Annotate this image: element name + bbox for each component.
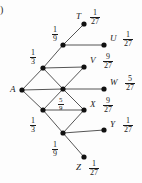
fraction-numerator: 5 (125, 75, 135, 83)
edge-probability-p-1-9-bottom: 19 (52, 140, 58, 158)
tree-node-n2 (40, 107, 45, 112)
tree-edge (22, 89, 63, 90)
edge-probability-p-1-3-bottom: 13 (30, 116, 36, 134)
tree-node-n3 (60, 42, 65, 47)
node-label-V: V (90, 56, 96, 65)
tree-edge (63, 67, 84, 89)
fraction-denominator: 9 (52, 34, 58, 43)
tree-graph-canvas (0, 0, 142, 183)
fraction-denominator: 9 (58, 104, 64, 112)
tree-edge (22, 68, 43, 90)
outcome-probability-T: 127 (90, 8, 100, 26)
edge-probability-p-1-9-top: 19 (52, 25, 58, 43)
node-label-U: U (110, 34, 117, 43)
tree-edge (43, 45, 63, 68)
tree-node-Y (101, 127, 106, 132)
node-label-W: W (110, 78, 118, 87)
outcome-probability-W: 527 (125, 74, 135, 92)
fraction-numerator: 1 (123, 31, 133, 39)
tree-node-Z (81, 154, 86, 159)
outcome-probability-Z: 127 (89, 159, 99, 177)
tree-edge (63, 110, 84, 133)
edge-probability-p-5-9-center: 59 (58, 95, 64, 112)
tree-node-W (101, 86, 106, 91)
tree-node-n5 (60, 130, 65, 135)
node-label-X: X (90, 100, 96, 109)
fraction-denominator: 3 (30, 57, 36, 66)
fraction-numerator: 1 (52, 141, 58, 149)
fraction: 927 (103, 97, 113, 114)
probability-tree-figure: ) A 1913591319 T127U127V927W527X927Y127Z… (0, 0, 142, 183)
fraction: 527 (125, 75, 135, 92)
fraction-denominator: 27 (123, 125, 133, 134)
tree-edge (63, 24, 84, 45)
tree-node-U (101, 42, 106, 47)
fraction: 927 (103, 53, 113, 70)
fraction-numerator: 1 (52, 26, 58, 34)
node-label-A: A (10, 85, 16, 94)
fraction: 127 (123, 31, 133, 48)
fraction: 19 (52, 26, 58, 43)
fraction-numerator: 1 (30, 117, 36, 125)
tree-edge (43, 110, 63, 133)
node-label-Y: Y (110, 120, 115, 129)
outcome-probability-Y: 127 (123, 116, 133, 134)
node-label-T: T (76, 12, 81, 21)
tree-edge (63, 133, 84, 157)
outcome-probability-V: 927 (103, 52, 113, 70)
fraction-denominator: 27 (103, 105, 113, 114)
fraction: 13 (30, 49, 36, 66)
tree-node-n1 (40, 65, 45, 70)
tree-node-n4 (60, 86, 65, 91)
tree-edge (43, 68, 63, 89)
fraction-numerator: 1 (90, 9, 100, 17)
fraction-denominator: 27 (103, 61, 113, 70)
fraction-denominator: 27 (90, 17, 100, 26)
fraction-numerator: 9 (103, 53, 113, 61)
tree-edge (22, 90, 43, 110)
fraction-numerator: 9 (103, 97, 113, 105)
fraction-numerator: 1 (30, 49, 36, 57)
fraction-numerator: 1 (123, 117, 133, 125)
tree-edge (63, 89, 84, 110)
fraction-numerator: 1 (89, 160, 99, 168)
outcome-probability-X: 927 (103, 96, 113, 114)
fraction-denominator: 27 (89, 168, 99, 177)
fraction: 59 (58, 97, 64, 112)
fraction-denominator: 27 (123, 39, 133, 48)
fraction: 127 (90, 9, 100, 26)
outcome-probability-U: 127 (123, 30, 133, 48)
tree-node-X (81, 107, 86, 112)
node-label-Z: Z (76, 163, 81, 172)
tree-node-V (81, 64, 86, 69)
edge-probability-p-1-3-top: 13 (30, 48, 36, 66)
fraction-numerator: 5 (58, 97, 64, 104)
node-layer (19, 21, 106, 159)
fraction-denominator: 9 (52, 149, 58, 158)
fraction-denominator: 27 (125, 83, 135, 92)
fraction: 19 (52, 141, 58, 158)
fraction-denominator: 3 (30, 125, 36, 134)
tree-edge (63, 130, 104, 133)
tree-node-A (19, 87, 24, 92)
fraction: 127 (123, 117, 133, 134)
fraction: 13 (30, 117, 36, 134)
tree-edge (43, 67, 84, 68)
tree-node-T (81, 21, 86, 26)
fraction: 127 (89, 160, 99, 177)
